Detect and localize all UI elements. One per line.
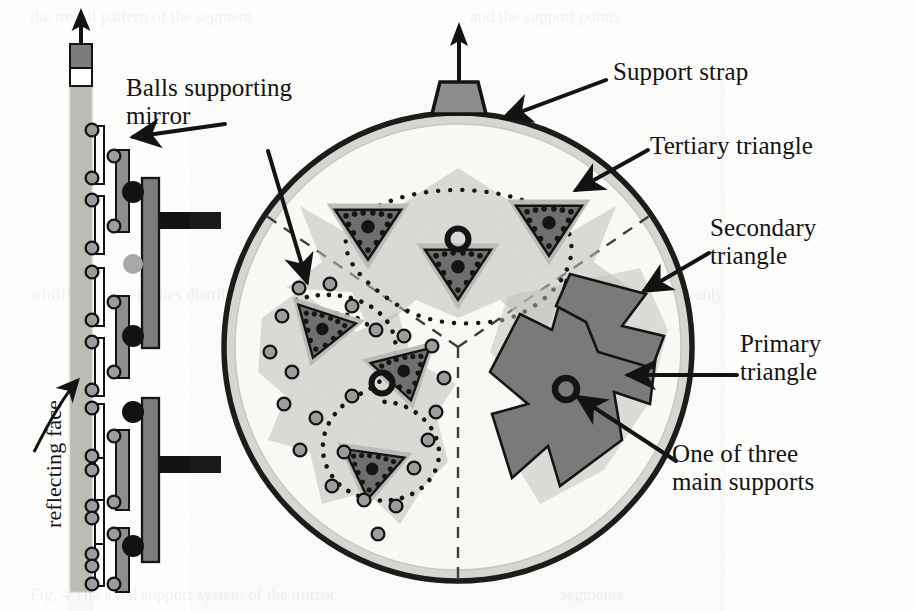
primary-pivot-ball xyxy=(122,535,144,557)
svg-text:segments.: segments. xyxy=(560,585,628,604)
svg-text:the trefoil pattern of the seg: the trefoil pattern of the segment xyxy=(30,7,253,26)
support-strap xyxy=(432,82,486,114)
label-primary-triangle: Primary triangle xyxy=(740,330,821,386)
primary-pivot-ball xyxy=(122,401,144,423)
support-stack xyxy=(86,124,221,592)
label-one-of-three-main-supports: One of three main supports xyxy=(672,440,814,496)
mirror-disc-group xyxy=(224,22,692,581)
primary-bars xyxy=(142,178,159,562)
diagram-canvas: the trefoil pattern of the segment and t… xyxy=(0,0,916,611)
label-support-strap: Support strap xyxy=(613,58,748,86)
mirror-tip-gap xyxy=(70,68,92,86)
svg-text:whiffletree assemblies distrib: whiffletree assemblies distribute xyxy=(30,285,251,304)
svg-text:and the support points: and the support points xyxy=(470,7,621,26)
label-reflecting-face: reflecting face xyxy=(42,400,67,528)
label-secondary-triangle: Secondary triangle xyxy=(710,214,816,270)
primary-idle-ball xyxy=(123,254,143,274)
mirror-tip-block xyxy=(70,44,92,68)
leader-support-strap xyxy=(504,80,606,118)
primary-pivot-ball xyxy=(122,181,144,203)
primary-pivot-ball xyxy=(122,325,144,347)
support-strap-group xyxy=(432,22,486,114)
main-support-post xyxy=(159,212,221,229)
main-support-post xyxy=(159,456,221,473)
label-tertiary-triangle: Tertiary triangle xyxy=(650,132,813,160)
label-balls-supporting-mirror: Balls supporting mirror xyxy=(126,74,292,130)
